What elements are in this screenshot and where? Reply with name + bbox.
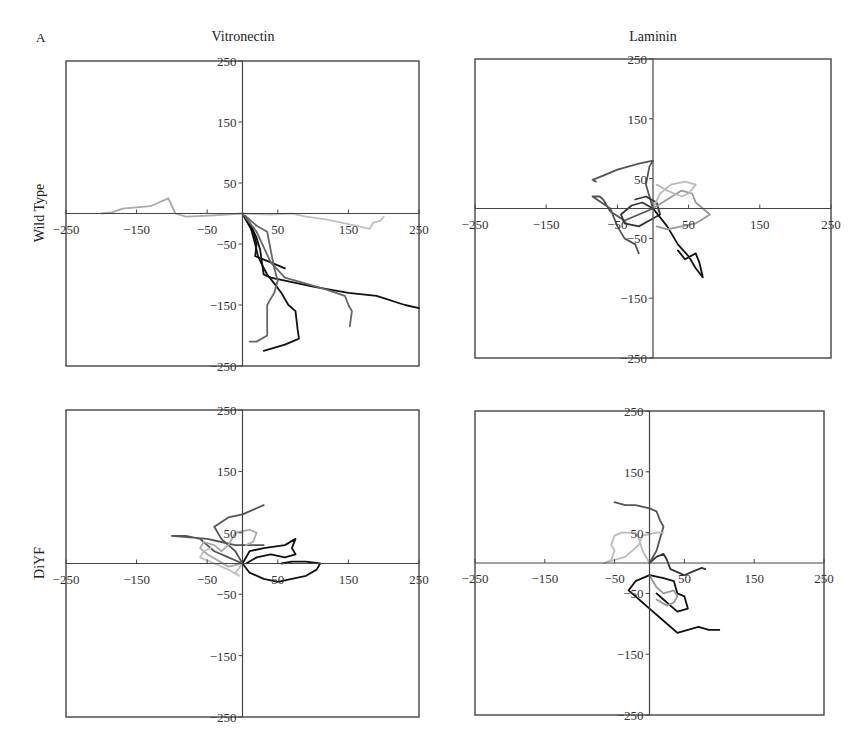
x-tick-label: 50 (682, 217, 695, 232)
y-tick-label: 250 (628, 52, 648, 67)
y-tick-label: 250 (217, 403, 237, 418)
y-tick-label: 150 (624, 465, 644, 480)
y-tick-label: −250 (620, 351, 647, 366)
x-tick-label: −150 (123, 222, 150, 237)
cell-track (653, 209, 703, 278)
plot-vitronectin-wild-type: −250−150−505015025025015050−50−150−250 (66, 61, 419, 366)
x-tick-label: 50 (678, 571, 691, 586)
row-label-diyf: DiYF (32, 503, 48, 623)
y-tick-label: −50 (216, 587, 236, 602)
column-title-laminin: Laminin (553, 29, 753, 45)
x-tick-label: −50 (197, 572, 217, 587)
x-tick-label: −50 (604, 571, 624, 586)
x-tick-label: 150 (339, 572, 359, 587)
y-tick-label: −50 (623, 586, 643, 601)
cell-track (172, 536, 264, 564)
x-tick-label: 50 (271, 572, 284, 587)
x-tick-label: 250 (409, 572, 429, 587)
x-tick-label: 250 (409, 222, 429, 237)
y-tick-label: −150 (210, 649, 237, 664)
y-tick-label: 50 (631, 526, 644, 541)
x-tick-label: −250 (462, 217, 489, 232)
y-tick-label: 150 (628, 112, 648, 127)
x-tick-label: −150 (123, 572, 150, 587)
x-tick-label: 50 (271, 222, 284, 237)
x-tick-label: −250 (462, 571, 489, 586)
x-tick-label: −50 (197, 222, 217, 237)
cell-track (650, 575, 678, 605)
x-tick-label: 250 (814, 571, 834, 586)
plot-laminin-diyf: −250−150−505015025025015050−50−150−250 (475, 411, 824, 715)
x-tick-label: −50 (607, 217, 627, 232)
y-tick-label: 50 (224, 176, 237, 191)
y-tick-label: 250 (624, 404, 644, 419)
y-tick-label: −150 (617, 647, 644, 662)
panel-letter: A (36, 30, 45, 46)
y-tick-label: −150 (210, 298, 237, 313)
y-tick-label: −50 (627, 231, 647, 246)
x-tick-label: 250 (821, 217, 841, 232)
plot-vitronectin-diyf: −250−150−505015025025015050−50−150−250 (66, 410, 419, 717)
y-tick-label: −250 (210, 359, 237, 374)
x-tick-label: −250 (53, 222, 80, 237)
plot-laminin-wild-type: −250−150−505015025025015050−50−150−250 (475, 59, 831, 358)
tracks (172, 505, 320, 582)
y-tick-label: 50 (224, 526, 237, 541)
tracks (604, 502, 719, 633)
x-tick-label: 150 (744, 571, 764, 586)
x-tick-label: −250 (53, 572, 80, 587)
cell-track (243, 214, 384, 229)
y-tick-label: 150 (217, 115, 237, 130)
y-tick-label: −250 (617, 708, 644, 723)
y-tick-label: 250 (217, 54, 237, 69)
x-tick-label: 150 (750, 217, 770, 232)
y-tick-label: −250 (210, 710, 237, 725)
y-tick-label: 150 (217, 464, 237, 479)
cell-track (243, 214, 352, 327)
x-tick-label: 150 (339, 222, 359, 237)
column-title-vitronectin: Vitronectin (143, 29, 343, 45)
y-tick-label: −150 (620, 291, 647, 306)
x-tick-label: −150 (533, 217, 560, 232)
x-tick-label: −150 (531, 571, 558, 586)
y-tick-label: −50 (216, 237, 236, 252)
y-tick-label: 50 (634, 172, 647, 187)
row-label-wild-type: Wild Type (32, 153, 48, 273)
